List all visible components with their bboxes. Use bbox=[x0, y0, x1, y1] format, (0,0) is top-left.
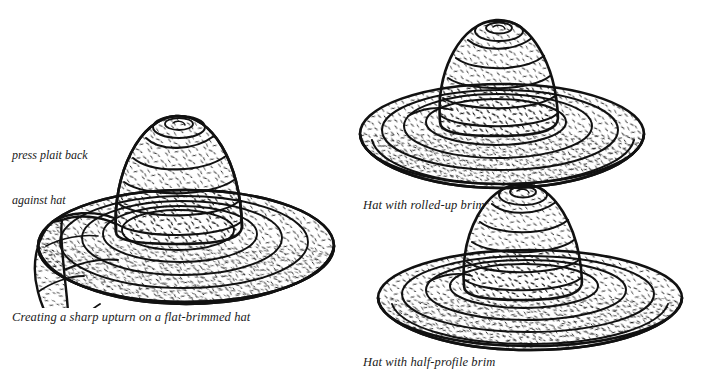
hat1-crown bbox=[116, 116, 242, 244]
annotation-press-plait-back-against-hat: press plait back against hat bbox=[12, 118, 88, 238]
caption-flat-brimmed-hat: Creating a sharp upturn on a flat-brimme… bbox=[12, 310, 250, 325]
caption-half-profile-brim: Hat with half-profile brim bbox=[363, 355, 495, 370]
annotation-line-1: press plait back bbox=[12, 148, 88, 163]
annotation-line-2: against hat bbox=[12, 193, 88, 208]
hat2-crown bbox=[440, 20, 558, 136]
illustration-page: press plait back against hat Creating a … bbox=[0, 0, 726, 391]
caption-rolled-up-brim: Hat with rolled-up brim bbox=[363, 198, 485, 213]
figure-rolled-up-brim-hat bbox=[352, 12, 652, 202]
